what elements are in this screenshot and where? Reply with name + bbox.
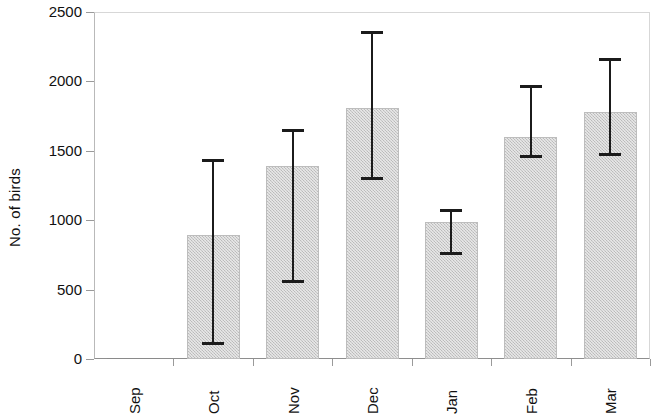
- error-bar-cap-top: [599, 58, 621, 61]
- y-axis-tick-label-text: 0: [8, 351, 82, 366]
- y-axis-tick-label-text: 1500: [8, 143, 82, 158]
- x-axis-tick-label: Oct: [202, 370, 224, 414]
- x-axis-tick: [650, 359, 651, 366]
- y-axis-tick-label: 1000: [0, 212, 82, 227]
- x-axis-tick-label: Nov: [282, 370, 304, 414]
- y-axis-tick: [86, 220, 94, 221]
- error-bar-cap-bottom: [282, 280, 304, 283]
- x-axis-tick: [491, 359, 492, 366]
- error-bar-cap-bottom: [440, 252, 462, 255]
- y-axis-tick-label: 2000: [0, 73, 82, 88]
- x-axis-tick: [332, 359, 333, 366]
- error-bar-stem: [371, 31, 373, 180]
- y-axis-tick: [86, 359, 94, 360]
- error-bar-cap-top: [440, 209, 462, 212]
- error-bar-stem: [530, 85, 532, 158]
- error-bar-stem: [212, 159, 214, 345]
- error-bar-cap-bottom: [599, 153, 621, 156]
- y-axis-tick-label-text: 1000: [8, 212, 82, 227]
- y-axis-tick-label: 2500: [0, 4, 82, 19]
- error-bar-cap-bottom: [520, 155, 542, 158]
- x-axis-tick: [412, 359, 413, 366]
- error-bar-cap-bottom: [202, 342, 224, 345]
- y-axis-tick-label-text: 2000: [8, 73, 82, 88]
- bar: [504, 137, 557, 359]
- bar-chart: No. of birds 05001000150020002500 SepOct…: [0, 0, 659, 415]
- error-bar-stem: [609, 58, 611, 155]
- error-bar-cap-top: [520, 85, 542, 88]
- y-axis-tick: [86, 151, 94, 152]
- error-bar-stem: [292, 129, 294, 284]
- x-axis-tick-label-text: Feb: [523, 388, 538, 414]
- error-bar-cap-top: [361, 31, 383, 34]
- y-axis-tick-label: 1500: [0, 143, 82, 158]
- x-axis-tick-label-text: Sep: [126, 387, 141, 414]
- bar: [107, 358, 160, 359]
- y-axis-tick: [86, 81, 94, 82]
- x-axis-tick-label-text: Oct: [206, 391, 221, 414]
- x-axis-tick-label: Sep: [123, 370, 145, 414]
- x-axis-tick-label: Feb: [520, 370, 542, 414]
- x-axis-tick: [253, 359, 254, 366]
- x-axis-tick-label-text: Nov: [285, 387, 300, 414]
- x-axis-tick-label: Dec: [361, 370, 383, 414]
- error-bar-cap-bottom: [361, 177, 383, 180]
- x-axis-tick-label-text: Mar: [603, 388, 618, 414]
- x-axis-tick: [571, 359, 572, 366]
- x-axis-tick-label-text: Dec: [365, 387, 380, 414]
- y-axis-tick: [86, 12, 94, 13]
- x-axis-tick: [173, 359, 174, 366]
- y-axis-tick-label-text: 2500: [8, 4, 82, 19]
- y-axis-tick: [86, 290, 94, 291]
- y-axis-tick-label: 0: [0, 351, 82, 366]
- y-axis-tick-label: 500: [0, 282, 82, 297]
- error-bar-stem: [450, 209, 452, 255]
- error-bar-cap-top: [202, 159, 224, 162]
- y-axis-tick-label-text: 500: [8, 282, 82, 297]
- x-axis-tick-label-text: Jan: [444, 390, 459, 414]
- bars-layer: [94, 12, 650, 359]
- x-axis-tick-label: Mar: [599, 370, 621, 414]
- x-axis-tick-label: Jan: [440, 370, 462, 414]
- error-bar-cap-top: [282, 129, 304, 132]
